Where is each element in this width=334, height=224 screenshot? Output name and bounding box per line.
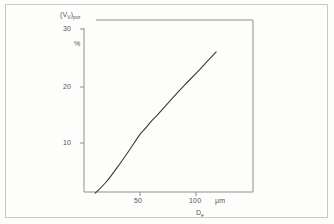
y-axis-label-subscript-por: por [73, 14, 81, 20]
y-axis-unit-label: % [74, 40, 80, 47]
y-axis-label: (VV)por [60, 11, 81, 20]
y-tick-label-30: 30 [63, 25, 71, 32]
x-axis-title-subscript: e [201, 212, 204, 218]
x-axis-unit-label: µm [215, 197, 225, 204]
chart-svg [0, 0, 334, 224]
x-tick-label-50: 50 [134, 197, 142, 204]
x-tick-label-100: 100 [189, 197, 201, 204]
y-tick-label-20: 20 [63, 83, 71, 90]
plot-area [0, 0, 334, 224]
data-curve [95, 52, 216, 193]
x-axis-title: De [196, 209, 204, 218]
figure-page: (VV)por % 30 20 10 50 100 µm De [0, 0, 334, 224]
y-tick-label-10: 10 [63, 139, 71, 146]
